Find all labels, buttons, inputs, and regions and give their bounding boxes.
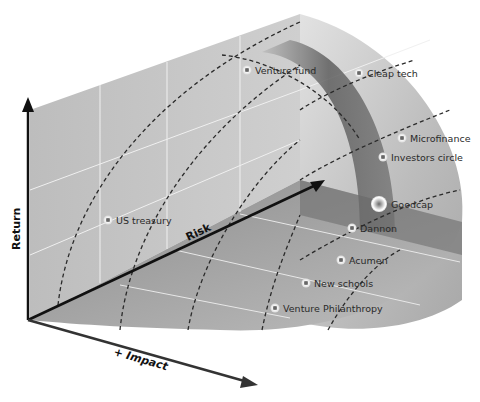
point-marker-icon <box>302 279 311 288</box>
investment-landscape-diagram: Return Risk + Impact Venture fundCleap t… <box>0 0 480 402</box>
point-label: Venture Philanthropy <box>283 303 383 314</box>
point-marker-icon <box>379 153 388 162</box>
point-marker-icon <box>371 196 387 212</box>
point-marker-icon <box>348 224 357 233</box>
point-label: Acumen <box>349 255 388 266</box>
point-marker-icon <box>243 66 252 75</box>
point-label: Cleap tech <box>367 68 418 79</box>
point-label: Dannon <box>360 223 397 234</box>
point-label: New schools <box>314 278 373 289</box>
return-axis-label: Return <box>10 208 23 250</box>
impact-arrow-icon <box>240 376 258 388</box>
point-label: Microfinance <box>410 133 471 144</box>
point-marker-icon <box>398 134 407 143</box>
data-point: Investors circle <box>379 152 464 163</box>
point-label: Venture fund <box>255 65 316 76</box>
data-point: Venture Philanthropy <box>271 303 384 314</box>
point-marker-icon <box>104 216 113 225</box>
point-label: US treasury <box>116 215 172 226</box>
return-arrow-icon <box>22 97 34 112</box>
point-marker-icon <box>355 69 364 78</box>
point-marker-icon <box>337 256 346 265</box>
point-marker-icon <box>271 304 280 313</box>
point-label: Investors circle <box>391 152 463 163</box>
impact-axis-label: + Impact <box>112 345 170 373</box>
point-label: Goodcap <box>391 199 433 210</box>
